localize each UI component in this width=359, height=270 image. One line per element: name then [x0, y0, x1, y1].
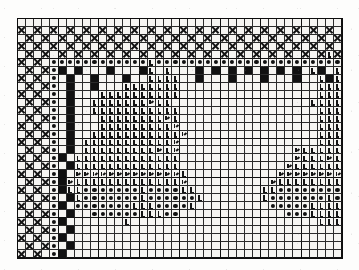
cell-cross-stitch-glyph	[26, 51, 33, 58]
cell-corner-stitch-slash-glyph	[293, 154, 300, 161]
cell-empty-mesh	[237, 170, 245, 178]
cell-empty-mesh	[245, 91, 253, 99]
cell-dot-stitch	[50, 234, 58, 242]
cell-dot-stitch-glyph	[318, 194, 325, 201]
cell-corner-stitch-glyph	[156, 107, 163, 114]
cell-empty-mesh	[237, 234, 245, 242]
cell-empty-mesh	[18, 67, 26, 75]
cell-empty-mesh	[26, 170, 34, 178]
cell-empty-mesh	[196, 226, 204, 234]
cell-empty-mesh	[204, 107, 212, 115]
cell-empty-mesh	[229, 186, 237, 194]
cell-empty-mesh	[131, 19, 139, 27]
cell-dot-stitch	[204, 59, 212, 67]
cell-corner-stitch	[123, 115, 131, 123]
cell-empty-mesh	[261, 170, 269, 178]
cell-corner-stitch-glyph	[334, 107, 341, 114]
cell-empty-mesh	[277, 35, 285, 43]
cell-empty-mesh	[212, 19, 220, 27]
cell-empty-mesh	[42, 154, 50, 162]
cell-empty-mesh	[196, 242, 204, 250]
cell-cross-stitch	[318, 51, 326, 59]
cell-empty-mesh	[221, 139, 229, 147]
cell-cross-stitch-glyph	[318, 35, 325, 42]
cell-corner-stitch-glyph	[131, 139, 138, 146]
cell-corner-stitch	[318, 210, 326, 218]
cell-corner-stitch	[188, 186, 196, 194]
cell-empty-mesh	[253, 139, 261, 147]
cell-dot-stitch-glyph	[50, 123, 57, 130]
cell-corner-stitch	[156, 107, 164, 115]
cell-corner-stitch-glyph	[91, 146, 98, 153]
cell-corner-stitch-glyph	[148, 139, 155, 146]
cell-empty-mesh	[18, 51, 26, 59]
cell-cross-stitch	[26, 210, 34, 218]
cell-empty-mesh	[285, 115, 293, 123]
cell-cross-stitch-glyph	[42, 83, 49, 90]
cell-cross-stitch	[229, 27, 237, 35]
cell-corner-stitch-glyph	[156, 162, 163, 169]
cell-empty-mesh	[229, 170, 237, 178]
cell-empty-mesh	[59, 19, 67, 27]
pattern-chart-page	[0, 0, 359, 270]
cell-corner-stitch-glyph	[131, 202, 138, 209]
cell-empty-mesh	[237, 27, 245, 35]
cell-empty-mesh	[237, 107, 245, 115]
cell-corner-stitch	[196, 194, 204, 202]
cell-empty-mesh	[285, 83, 293, 91]
cell-empty-mesh	[229, 242, 237, 250]
cell-dot-stitch-glyph	[326, 186, 333, 193]
cell-empty-mesh	[59, 107, 67, 115]
cell-filled-block-glyph	[212, 67, 219, 74]
cell-cross-stitch	[59, 51, 67, 59]
cell-empty-mesh	[123, 19, 131, 27]
cell-empty-mesh	[237, 139, 245, 147]
cell-cross-stitch	[18, 154, 26, 162]
cell-corner-stitch	[277, 178, 285, 186]
cell-filled-block-glyph	[59, 202, 66, 209]
cell-corner-stitch	[148, 83, 156, 91]
cell-empty-mesh	[293, 51, 301, 59]
cell-dot-stitch-glyph	[310, 194, 317, 201]
cell-empty-mesh	[253, 67, 261, 75]
cell-empty-mesh	[310, 83, 318, 91]
cell-dot-stitch	[91, 59, 99, 67]
cell-corner-stitch-glyph	[107, 123, 114, 130]
cell-dot-stitch-glyph	[50, 139, 57, 146]
cell-empty-mesh	[253, 242, 261, 250]
cell-corner-stitch	[107, 146, 115, 154]
cell-corner-stitch	[83, 139, 91, 147]
cell-corner-stitch-glyph	[140, 131, 147, 138]
cell-cross-stitch	[18, 27, 26, 35]
cell-empty-mesh	[318, 19, 326, 27]
cell-corner-stitch-glyph	[164, 67, 171, 74]
cell-cross-stitch-glyph	[18, 218, 25, 225]
cell-empty-mesh	[253, 210, 261, 218]
cell-empty-mesh	[67, 154, 75, 162]
cell-corner-stitch	[302, 178, 310, 186]
cell-dot-stitch	[91, 210, 99, 218]
cell-dot-stitch-glyph	[123, 186, 130, 193]
cell-corner-stitch	[318, 123, 326, 131]
cell-cross-stitch-glyph	[34, 91, 41, 98]
cell-empty-mesh	[221, 202, 229, 210]
cell-cross-stitch-glyph	[334, 35, 341, 42]
cell-filled-block	[67, 146, 75, 154]
cell-dot-stitch-glyph	[99, 59, 106, 66]
cell-cross-stitch	[123, 35, 131, 43]
cell-empty-mesh	[318, 234, 326, 242]
cell-cross-stitch	[42, 99, 50, 107]
cell-corner-stitch-glyph	[91, 131, 98, 138]
cell-empty-mesh	[188, 99, 196, 107]
cell-empty-mesh	[212, 115, 220, 123]
cell-corner-stitch-glyph	[334, 202, 341, 209]
cell-corner-stitch	[326, 146, 334, 154]
cell-empty-mesh	[34, 35, 42, 43]
cell-cross-stitch-glyph	[34, 154, 41, 161]
cell-dot-stitch-glyph	[164, 59, 171, 66]
cell-corner-stitch	[164, 99, 172, 107]
cell-corner-stitch-glyph	[131, 154, 138, 161]
cell-corner-stitch	[269, 186, 277, 194]
cell-dot-stitch	[172, 202, 180, 210]
cell-empty-mesh	[221, 218, 229, 226]
